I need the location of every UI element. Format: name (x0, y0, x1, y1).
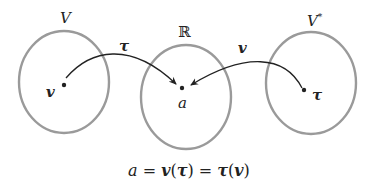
set-vstar-circle (266, 32, 356, 134)
set-vstar-label: V* (307, 12, 323, 30)
set-r-label: ℝ (178, 23, 191, 41)
point-v-label: v (46, 83, 55, 101)
point-tau-label: τ (312, 86, 323, 104)
point-v-dot (62, 83, 66, 87)
arrow-v-label: v (238, 39, 247, 57)
set-v-circle (19, 31, 109, 133)
arrow-v (191, 62, 302, 88)
point-a-label: a (178, 94, 187, 112)
arrow-tau-label: τ (119, 37, 130, 55)
duality-diagram: V ℝ V* τ v v a τ a = v(τ) = τ(v) (0, 0, 372, 192)
point-tau-dot (302, 88, 306, 92)
arrow-tau (66, 54, 176, 84)
point-a-dot (180, 86, 184, 90)
set-v-label: V (60, 9, 73, 27)
equation: a = v(τ) = τ(v) (128, 161, 250, 180)
